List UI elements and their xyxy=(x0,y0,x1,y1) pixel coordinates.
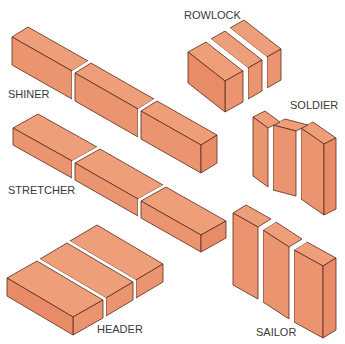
soldier-group xyxy=(253,111,336,215)
header-label: HEADER xyxy=(97,323,143,335)
brick-orientation-diagram: ROWLOCK SHINER SOLDIER STRETCHER HEADER … xyxy=(0,0,345,344)
sailor-brick-3 xyxy=(294,242,336,338)
header-group xyxy=(7,225,163,335)
sailor-group xyxy=(233,205,336,338)
rowlock-group xyxy=(188,20,281,112)
soldier-brick-3 xyxy=(301,122,336,215)
sailor-label: SAILOR xyxy=(256,326,296,338)
rowlock-label: ROWLOCK xyxy=(184,9,242,21)
stretcher-brick-3 xyxy=(141,187,226,252)
stretcher-label: STRETCHER xyxy=(8,184,75,196)
soldier-label: SOLDIER xyxy=(290,99,338,111)
shiner-label: SHINER xyxy=(8,88,50,100)
shiner-brick-3 xyxy=(141,101,217,173)
